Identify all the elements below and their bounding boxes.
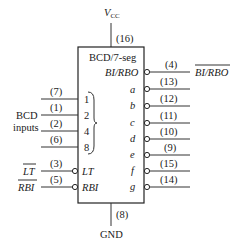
svg-text:(1): (1) [50,102,63,114]
svg-text:(10): (10) [160,126,178,138]
vcc-pin: (16) [116,33,134,45]
svg-text:(12): (12) [160,93,178,105]
bi-rbo-inner-label: BI/RBO [105,67,139,78]
svg-text:LT: LT [81,166,95,177]
svg-text:(6): (6) [50,134,63,146]
inputs-label: inputs [13,122,39,133]
bi-rbo-bubble [144,69,149,74]
svg-text:(11): (11) [160,110,178,122]
svg-text:b: b [130,100,135,111]
svg-text:(3): (3) [50,158,63,170]
svg-text:8: 8 [84,142,89,153]
svg-text:4: 4 [84,126,90,137]
svg-text:1: 1 [84,94,89,105]
svg-text:(14): (14) [160,174,178,186]
svg-text:RBI: RBI [81,182,99,193]
svg-text:g: g [130,181,135,192]
svg-text:e: e [130,149,135,160]
svg-text:LT: LT [22,166,36,177]
svg-text:c: c [130,117,135,128]
bi-rbo-outer-label: BI/RBO [195,67,229,78]
vcc-label: VCC [104,7,120,20]
bcd-7seg-decoder-diagram: VCC (16) BCD/7-seg BI/RBO (4) BI/RBO a(1… [0,0,241,250]
svg-text:d: d [130,133,136,144]
svg-text:(9): (9) [164,142,177,154]
svg-text:(15): (15) [160,158,178,170]
svg-text:(7): (7) [50,86,63,98]
svg-text:(5): (5) [50,174,63,186]
bcd-label: BCD [16,110,38,121]
svg-text:a: a [130,84,135,95]
svg-text:(13): (13) [160,76,178,88]
bi-rbo-pin: (4) [165,59,178,71]
gnd-pin: (8) [116,209,129,221]
gnd-label: GND [100,229,123,240]
svg-text:(2): (2) [50,118,63,130]
svg-text:RBI: RBI [17,182,35,193]
svg-text:2: 2 [84,110,89,121]
chip-title: BCD/7-seg [89,52,137,63]
